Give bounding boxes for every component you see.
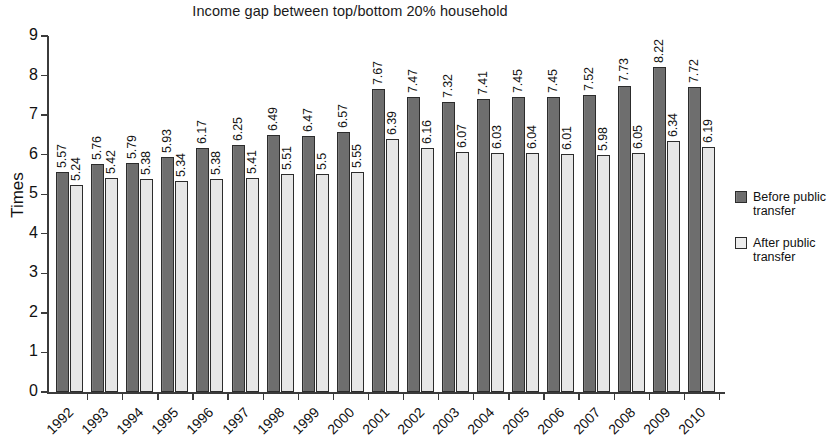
legend-swatch-after-icon [735,237,747,249]
x-tick-1993 [122,392,123,400]
x-tick-2009 [684,392,685,400]
bar-before-2005[interactable] [512,97,525,392]
bar-group: 5.575.24 [56,36,84,392]
bar-before-2002[interactable] [407,97,420,392]
y-tick-label-3: 3 [18,263,38,281]
bar-after-1993[interactable] [105,178,118,392]
bar-after-2005[interactable] [526,153,539,392]
chart-legend: Before public transferAfter public trans… [735,190,834,282]
bar-value-before-1993: 5.76 [90,136,104,160]
bar-before-2007[interactable] [583,95,596,392]
plot-area: 5.575.245.765.425.795.385.935.346.175.38… [47,36,723,392]
bar-before-1997[interactable] [232,145,245,392]
bar-value-after-2001: 6.39 [385,111,399,135]
bar-after-2000[interactable] [351,172,364,392]
x-tick-2006 [578,392,579,400]
bar-before-2001[interactable] [372,89,385,392]
x-tick-1999 [333,392,334,400]
bar-group: 7.456.04 [512,36,540,392]
legend-item-after[interactable]: After public transfer [735,236,834,264]
bar-before-1999[interactable] [302,136,315,392]
bar-after-1997[interactable] [246,178,259,392]
bar-after-2003[interactable] [456,152,469,392]
bar-after-1995[interactable] [175,181,188,392]
x-tick-2005 [543,392,544,400]
bar-chart: Income gap between top/bottom 20% househ… [0,0,834,441]
bar-value-before-2008: 7.73 [617,58,631,82]
legend-swatch-before-icon [735,191,747,203]
bar-value-after-1997: 5.41 [245,150,259,174]
bar-value-before-2010: 7.72 [687,59,701,83]
bar-before-1995[interactable] [161,157,174,392]
bar-before-2000[interactable] [337,132,350,392]
x-axis-label-2003: 2003 [429,404,462,437]
bar-before-1992[interactable] [56,172,69,392]
bar-before-1996[interactable] [196,148,209,392]
bar-group: 5.935.34 [161,36,189,392]
bar-after-1994[interactable] [140,179,153,392]
bar-after-2008[interactable] [632,153,645,392]
legend-item-before[interactable]: Before public transfer [735,190,834,218]
bar-before-2004[interactable] [477,99,490,392]
bar-group: 6.495.51 [267,36,295,392]
x-axis-label-2004: 2004 [464,404,497,437]
bar-after-2004[interactable] [491,153,504,392]
x-tick-1998 [298,392,299,400]
bar-after-2001[interactable] [386,139,399,392]
y-tick-label-8: 8 [18,66,38,84]
bar-value-before-2006: 7.45 [546,69,560,93]
bar-value-after-2002: 6.16 [420,120,434,144]
x-tick-2004 [508,392,509,400]
bar-value-after-1999: 5.5 [315,153,329,170]
bar-value-before-1998: 6.49 [266,107,280,131]
bar-before-1993[interactable] [91,164,104,392]
bar-before-2009[interactable] [653,67,666,392]
bar-after-1996[interactable] [210,179,223,392]
bar-before-2003[interactable] [442,102,455,392]
bar-after-2002[interactable] [421,148,434,392]
bar-value-before-2000: 6.57 [336,104,350,128]
y-tick-label-7: 7 [18,105,38,123]
bar-before-2008[interactable] [618,86,631,392]
bar-after-1998[interactable] [281,174,294,392]
bar-value-after-1992: 5.24 [69,157,83,181]
bar-after-2009[interactable] [667,141,680,392]
bar-group: 6.475.5 [302,36,330,392]
x-axis-label-2000: 2000 [324,404,357,437]
x-tick-2000 [368,392,369,400]
bar-value-before-1999: 6.47 [301,108,315,132]
x-tick-1997 [263,392,264,400]
bar-value-before-1992: 5.57 [55,144,69,168]
x-axis-label-1996: 1996 [184,404,217,437]
x-axis-label-2009: 2009 [640,404,673,437]
x-axis-label-1999: 1999 [289,404,322,437]
bar-value-after-2009: 6.34 [666,113,680,137]
bar-after-2006[interactable] [561,154,574,392]
x-tick-2008 [649,392,650,400]
bar-before-2010[interactable] [688,87,701,392]
x-axis-label-1997: 1997 [219,404,252,437]
y-tick-label-5: 5 [18,184,38,202]
x-axis-label-1994: 1994 [113,404,146,437]
x-axis-label-1992: 1992 [43,404,76,437]
bar-group: 6.255.41 [232,36,260,392]
bar-before-1994[interactable] [126,163,139,392]
x-axis-label-1995: 1995 [148,404,181,437]
bar-value-before-2001: 7.67 [371,61,385,85]
bar-value-after-2006: 6.01 [560,126,574,150]
bar-group: 5.795.38 [126,36,154,392]
bar-value-after-2000: 5.55 [350,145,364,169]
bar-value-before-2003: 7.32 [441,75,455,99]
bar-after-1992[interactable] [70,185,83,392]
bar-after-2010[interactable] [702,147,715,392]
bar-before-2006[interactable] [547,97,560,392]
bar-value-after-2003: 6.07 [455,124,469,148]
bar-before-1998[interactable] [267,135,280,392]
bar-value-after-2007: 5.98 [596,128,610,152]
x-tick-2003 [473,392,474,400]
x-axis-label-2005: 2005 [499,404,532,437]
bar-after-2007[interactable] [597,155,610,392]
bar-after-1999[interactable] [316,174,329,392]
bar-group: 6.575.55 [337,36,365,392]
bar-group: 7.456.01 [547,36,575,392]
